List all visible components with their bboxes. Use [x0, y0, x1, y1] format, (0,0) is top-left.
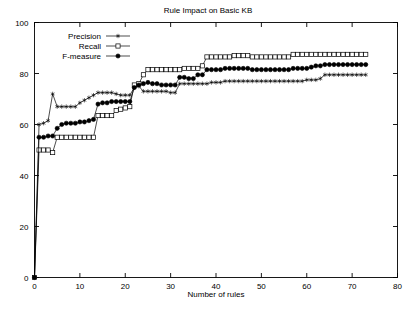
data-point [141, 73, 145, 77]
data-point [64, 121, 68, 125]
data-point [309, 52, 313, 56]
data-point [60, 135, 64, 139]
data-point [300, 66, 304, 70]
data-point [169, 83, 173, 87]
data-point [37, 135, 41, 139]
data-point [364, 62, 368, 66]
data-point [291, 66, 295, 70]
data-point [173, 68, 177, 72]
data-point [119, 99, 123, 103]
legend-label-f-measure: F-measure [62, 52, 101, 61]
x-tick-label: 50 [257, 282, 266, 291]
data-point [100, 113, 104, 117]
data-point [273, 55, 277, 59]
data-point [359, 62, 363, 66]
data-point [359, 52, 363, 56]
data-point [246, 66, 250, 70]
data-point [132, 85, 136, 89]
data-point [128, 99, 132, 103]
data-point [268, 55, 272, 59]
data-point [205, 68, 209, 72]
data-point [64, 135, 68, 139]
data-point [150, 82, 154, 86]
data-point [123, 99, 127, 103]
data-point [332, 52, 336, 56]
data-point [196, 73, 200, 77]
data-point [223, 55, 227, 59]
data-point [305, 66, 309, 70]
data-point [264, 55, 268, 59]
data-point [314, 52, 318, 56]
data-point [146, 80, 150, 84]
data-point [309, 65, 313, 69]
data-point [150, 68, 154, 72]
chart-title: Rule Impact on Basic KB [164, 6, 252, 15]
data-point [82, 135, 86, 139]
data-point [350, 52, 354, 56]
data-point [323, 52, 327, 56]
x-tick-label: 60 [302, 282, 311, 291]
data-point [116, 44, 120, 48]
legend-label-recall: Recall [79, 42, 101, 51]
x-axis-title: Number of rules [188, 290, 245, 299]
data-point [268, 68, 272, 72]
data-point [178, 75, 182, 79]
data-point [119, 107, 123, 111]
data-point [187, 66, 191, 70]
data-point [100, 101, 104, 105]
data-point [169, 68, 173, 72]
data-point [241, 54, 245, 58]
data-point [341, 62, 345, 66]
data-point [259, 68, 263, 72]
data-point [78, 135, 82, 139]
data-point [232, 66, 236, 70]
data-point [114, 108, 118, 112]
data-point [87, 135, 91, 139]
y-tick-label: 20 [20, 223, 29, 232]
data-point [314, 64, 318, 68]
data-point [214, 55, 218, 59]
data-point [159, 68, 163, 72]
data-point [223, 66, 227, 70]
data-point [336, 52, 340, 56]
data-point [128, 105, 132, 109]
data-point [250, 55, 254, 59]
data-point [146, 68, 150, 72]
data-point [200, 64, 204, 68]
data-point [46, 134, 50, 138]
data-point [91, 135, 95, 139]
data-point [73, 121, 77, 125]
data-point [82, 120, 86, 124]
data-point [60, 122, 64, 126]
data-point [191, 77, 195, 81]
data-point [364, 52, 368, 56]
data-point [232, 54, 236, 58]
data-point [91, 117, 95, 121]
data-point [264, 68, 268, 72]
legend-label-precision: Precision [68, 32, 101, 41]
data-point [96, 113, 100, 117]
y-tick-label: 60 [20, 121, 29, 130]
data-point [318, 52, 322, 56]
data-point [37, 148, 41, 152]
data-point [32, 275, 36, 279]
data-point [164, 68, 168, 72]
data-point [209, 68, 213, 72]
data-point [336, 62, 340, 66]
data-point [287, 68, 291, 72]
data-point [182, 75, 186, 79]
data-point [73, 135, 77, 139]
data-point [296, 66, 300, 70]
data-point [51, 134, 55, 138]
data-point [69, 121, 73, 125]
data-point [105, 101, 109, 105]
data-point [345, 62, 349, 66]
data-point [355, 52, 359, 56]
data-point [296, 52, 300, 56]
data-point [323, 62, 327, 66]
data-point [318, 64, 322, 68]
data-point [137, 83, 141, 87]
data-point [327, 62, 331, 66]
data-point [237, 66, 241, 70]
data-point [255, 68, 259, 72]
